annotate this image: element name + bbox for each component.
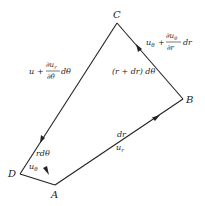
cd-plus: + [37,67,44,76]
arrow-da-icon [43,166,49,175]
da-length-label: rdθ [36,149,50,158]
ab-length-label: dr [117,130,127,139]
vertex-label-b: B [185,94,193,105]
vertex-label-c: C [113,9,121,20]
bc-plus: + [158,38,165,47]
bc-suffix: dr [183,38,193,47]
cd-velocity-u: u [29,67,34,76]
polar-element-diagram: C B D A dr ur (r + dr) dθ uθ + ∂uθ ∂r dr… [0,0,205,206]
diagram-svg: C B D A dr ur (r + dr) dθ uθ + ∂uθ ∂r dr… [0,0,205,206]
edge-cd [20,23,117,174]
cd-frac-num: ∂ur [46,61,57,70]
edge-da [20,174,55,185]
bc-frac-num: ∂uθ [166,32,177,41]
cd-suffix: dθ [61,67,71,76]
vertex-label-d: D [7,168,16,179]
bc-length-label: (r + dr) dθ [112,67,155,76]
edge-ab [55,99,183,185]
ab-velocity-label: ur [116,143,124,153]
da-velocity-label: uθ [29,162,38,172]
arrow-ab-icon [152,115,160,121]
bc-velocity-u: uθ [146,38,155,48]
bc-frac-den: ∂r [167,44,175,52]
vertex-label-a: A [50,189,58,200]
cd-frac-den: ∂θ [47,73,56,81]
